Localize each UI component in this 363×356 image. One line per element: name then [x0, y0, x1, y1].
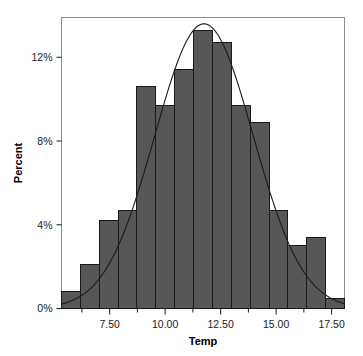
- histogram-bar[interactable]: [137, 87, 156, 309]
- histogram-bar[interactable]: [231, 105, 250, 308]
- y-axis-tick-label: 8%: [37, 135, 52, 147]
- histogram-bar[interactable]: [307, 237, 326, 308]
- histogram-bar[interactable]: [62, 292, 81, 309]
- histogram-bar[interactable]: [288, 246, 307, 309]
- x-axis-tick-label: 7.50: [99, 318, 120, 330]
- y-axis-tick-label: 12%: [31, 51, 52, 63]
- x-axis-tick-label: 15.00: [263, 318, 289, 330]
- histogram-bar[interactable]: [212, 43, 231, 309]
- histogram-bar[interactable]: [80, 265, 99, 309]
- histogram-bar[interactable]: [194, 30, 213, 308]
- x-axis-tick-label: 12.50: [208, 318, 234, 330]
- histogram-bar[interactable]: [118, 210, 137, 308]
- x-axis-tick-label: 17.50: [318, 318, 344, 330]
- y-axis-tick-label: 4%: [37, 219, 52, 231]
- chart-canvas: 0%4%8%12%7.5010.0012.5015.0017.50TempPer…: [0, 0, 363, 356]
- histogram-bar[interactable]: [250, 122, 269, 308]
- histogram-chart: 0%4%8%12%7.5010.0012.5015.0017.50TempPer…: [0, 0, 363, 356]
- histogram-bar[interactable]: [175, 70, 194, 309]
- y-axis-tick-label: 0%: [37, 302, 52, 314]
- x-axis-title: Temp: [189, 335, 218, 347]
- y-axis: 0%4%8%12%: [31, 51, 61, 314]
- x-axis-tick-label: 10.00: [152, 318, 178, 330]
- y-axis-title: Percent: [12, 142, 24, 183]
- histogram-bar[interactable]: [269, 210, 288, 308]
- histogram-bar[interactable]: [156, 105, 175, 308]
- x-axis: 7.5010.0012.5015.0017.50: [82, 309, 345, 330]
